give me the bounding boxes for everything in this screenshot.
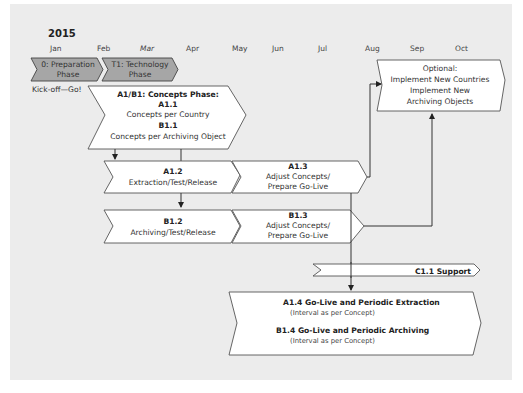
kickoff-label: Kick-off—Go! — [32, 85, 82, 94]
svg-text:Implement New: Implement New — [410, 86, 470, 95]
month-jul: Jul — [317, 44, 327, 53]
task-b13: B1.3 Adjust Concepts/ Prepare Go-Live — [232, 210, 364, 243]
svg-text:Phase: Phase — [57, 70, 80, 79]
svg-text:Adjust Concepts/: Adjust Concepts/ — [266, 172, 331, 181]
task-b12: B1.2 Archiving/Test/Release — [104, 210, 240, 243]
svg-text:Implement New Countries: Implement New Countries — [391, 75, 490, 84]
svg-text:B1.4 Go-Live and Periodic Arch: B1.4 Go-Live and Periodic Archiving — [276, 326, 429, 335]
svg-text:0: Preparation: 0: Preparation — [41, 60, 95, 69]
month-feb: Feb — [97, 44, 111, 53]
task-a13: A1.3 Adjust Concepts/ Prepare Go-Live — [232, 161, 367, 193]
svg-text:B1.3: B1.3 — [288, 211, 307, 220]
phase-technology: T1: Technology Phase — [102, 58, 178, 81]
svg-text:C1.1 Support: C1.1 Support — [415, 267, 471, 276]
svg-text:Prepare Go-Live: Prepare Go-Live — [268, 231, 329, 240]
svg-text:Archiving/Test/Release: Archiving/Test/Release — [130, 228, 216, 237]
support-bar: C1.1 Support — [313, 264, 480, 276]
svg-text:Extraction/Test/Release: Extraction/Test/Release — [129, 178, 218, 187]
svg-text:A1.1: A1.1 — [158, 100, 177, 109]
arrow-b13-to-optional — [364, 114, 432, 226]
optional-box: Optional: Implement New Countries Implem… — [377, 60, 505, 111]
svg-text:Optional:: Optional: — [423, 64, 458, 73]
month-mar: Mar — [140, 44, 155, 53]
svg-text:A1.4 Go-Live and Periodic Extr: A1.4 Go-Live and Periodic Extraction — [283, 298, 440, 307]
month-may: May — [232, 44, 248, 53]
month-aug: Aug — [365, 44, 380, 53]
month-jun: Jun — [271, 44, 284, 53]
month-sep: Sep — [410, 44, 424, 53]
month-oct: Oct — [455, 44, 468, 53]
svg-text:B1.1: B1.1 — [158, 121, 177, 130]
svg-text:Adjust Concepts/: Adjust Concepts/ — [266, 221, 331, 230]
svg-text:Prepare Go-Live: Prepare Go-Live — [268, 182, 329, 191]
svg-text:A1.3: A1.3 — [288, 162, 307, 171]
svg-text:Concepts per Country: Concepts per Country — [127, 110, 210, 119]
month-jan: Jan — [49, 44, 62, 53]
svg-text:(Interval as per Concept): (Interval as per Concept) — [290, 337, 375, 345]
year-label: 2015 — [48, 28, 76, 39]
svg-text:B1.2: B1.2 — [163, 217, 182, 226]
concepts-phase-box: A1/B1: Concepts Phase: A1.1 Concepts per… — [88, 86, 246, 149]
svg-text:(Interval as per Concept): (Interval as per Concept) — [290, 309, 375, 317]
task-a12: A1.2 Extraction/Test/Release — [104, 161, 240, 193]
svg-text:Concepts per Archiving Object: Concepts per Archiving Object — [110, 132, 225, 141]
svg-text:Archiving Objects: Archiving Objects — [407, 97, 474, 106]
golive-box: A1.4 Go-Live and Periodic Extraction (In… — [229, 292, 481, 355]
phase-preparation: 0: Preparation Phase — [31, 58, 103, 81]
svg-text:T1: Technology: T1: Technology — [111, 60, 169, 69]
svg-text:A1.2: A1.2 — [163, 167, 182, 176]
project-timeline-diagram: 2015 Jan Feb Mar Apr May Jun Jul Aug Sep… — [0, 0, 523, 393]
arrow-a13-to-optional — [367, 84, 381, 177]
svg-text:Phase: Phase — [129, 70, 152, 79]
month-axis: Jan Feb Mar Apr May Jun Jul Aug Sep Oct — [49, 44, 468, 53]
svg-text:A1/B1: Concepts Phase:: A1/B1: Concepts Phase: — [117, 90, 219, 99]
month-apr: Apr — [186, 44, 200, 53]
